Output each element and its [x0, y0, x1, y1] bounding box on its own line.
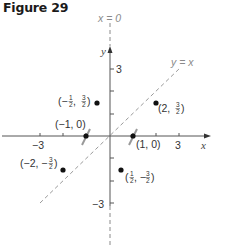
label-neg2-neg3half: (−2, − 3 2 ) [20, 156, 58, 170]
vertical-line-label: x = 0 [97, 12, 121, 24]
label-1-0: (1, 0) [136, 138, 161, 150]
y-axis-label: y [100, 45, 106, 57]
diagonal-line-label: y = x [170, 56, 194, 68]
label-2-3half: (2, 3 2 ) [158, 101, 185, 115]
label-neghalf-3half: (− 1 2 , 3 2 ) [58, 94, 91, 108]
svg-text:): ) [54, 157, 58, 169]
x-tick-label-neg3: −3 [32, 139, 44, 151]
x-tick-label-3: 3 [175, 139, 181, 151]
svg-text:2: 2 [49, 163, 53, 170]
svg-text:3: 3 [146, 170, 150, 177]
svg-text:3: 3 [176, 101, 180, 108]
coordinate-plane: −3 3 3 −3 x y x = 0 y = x (1, 0) (−1, 0)… [0, 0, 226, 252]
svg-text:3: 3 [49, 156, 53, 163]
point-neg1-0 [83, 133, 88, 138]
point-half-neg3half [118, 167, 123, 172]
svg-text:2: 2 [146, 177, 150, 184]
svg-text:,: , [73, 95, 76, 107]
svg-text:(: ( [125, 171, 129, 183]
svg-text:): ) [151, 171, 155, 183]
svg-text:): ) [87, 95, 91, 107]
y-tick-label-3: 3 [116, 63, 122, 75]
point-neghalf-3half [94, 100, 99, 105]
svg-text:(2,: (2, [158, 102, 170, 114]
point-neg2-neg3half [60, 167, 65, 172]
svg-text:(−2, −: (−2, − [20, 157, 47, 169]
svg-text:, −: , − [134, 171, 146, 183]
svg-text:3: 3 [82, 94, 86, 101]
label-neg1-0: (−1, 0) [55, 118, 86, 130]
svg-text:2: 2 [82, 101, 86, 108]
x-axis-arrow-icon [204, 134, 211, 139]
svg-text:): ) [181, 102, 185, 114]
point-1-0 [130, 133, 135, 138]
y-axis-arrow-icon [108, 46, 113, 53]
svg-text:(−: (− [58, 95, 68, 107]
svg-text:2: 2 [176, 108, 180, 115]
label-half-neg3half: ( 1 2 , − 3 2 ) [125, 170, 155, 184]
x-axis-label: x [200, 139, 206, 151]
y-tick-label-neg3: −3 [92, 198, 104, 210]
